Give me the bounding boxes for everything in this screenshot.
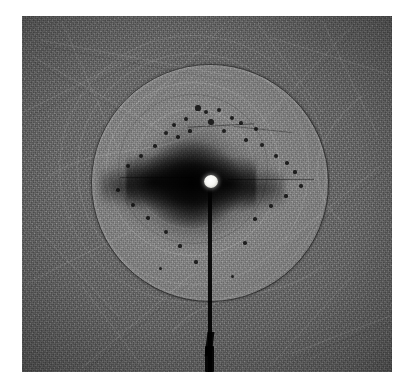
reflection-spot <box>284 194 287 197</box>
streak-equatorial-right <box>228 179 314 180</box>
reflection-spot <box>164 230 168 234</box>
reflection-spot <box>131 203 135 207</box>
reflection-spot <box>208 119 214 125</box>
reflection-spot <box>204 110 208 114</box>
diffraction-plate <box>22 16 392 372</box>
direct-beam-spot <box>204 175 218 188</box>
reflection-spot <box>164 131 168 135</box>
reflection-spot <box>178 244 181 247</box>
reflection-spot <box>231 275 234 278</box>
reflection-spot <box>194 260 197 263</box>
reflection-spot <box>293 170 296 173</box>
reflection-spot <box>299 184 302 187</box>
reflection-spot <box>116 188 120 192</box>
reflection-spot <box>159 267 162 270</box>
reflection-spot <box>188 129 191 132</box>
streak-equatorial-left <box>120 177 194 178</box>
reflection-spot <box>239 121 243 125</box>
reflection-spot <box>269 204 272 207</box>
reflection-spot <box>254 127 258 131</box>
reflection-spot <box>260 143 264 147</box>
reflection-spot <box>253 217 257 221</box>
beam-stop-shadow-foot <box>205 346 214 372</box>
reflection-spot <box>153 144 157 148</box>
reflection-spot <box>243 241 246 244</box>
figure-viewport <box>0 0 416 388</box>
reflection-spot <box>285 161 289 165</box>
reflection-spot <box>176 135 179 138</box>
reflection-spot <box>244 138 247 141</box>
reflection-spot <box>146 216 149 219</box>
reflection-spot <box>195 105 200 110</box>
reflection-spot <box>184 117 188 121</box>
reflection-spot <box>126 164 130 168</box>
